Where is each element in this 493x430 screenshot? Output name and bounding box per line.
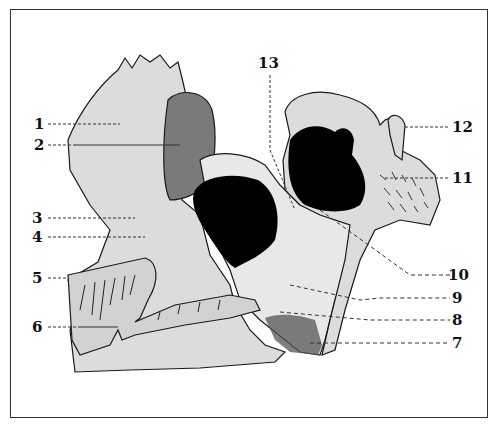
label-11: 11	[452, 171, 473, 186]
label-13: 13	[258, 56, 279, 71]
label-8: 8	[452, 313, 462, 328]
label-3: 3	[32, 211, 42, 226]
label-1: 1	[34, 117, 44, 132]
label-7: 7	[452, 336, 462, 351]
label-6: 6	[32, 320, 42, 335]
right-cavity	[288, 126, 365, 211]
label-12: 12	[452, 120, 473, 135]
label-5: 5	[32, 271, 42, 286]
label-10: 10	[448, 268, 469, 283]
label-2: 2	[34, 138, 44, 153]
label-9: 9	[452, 291, 462, 306]
label-4: 4	[32, 230, 42, 245]
anatomical-diagram	[0, 0, 493, 430]
